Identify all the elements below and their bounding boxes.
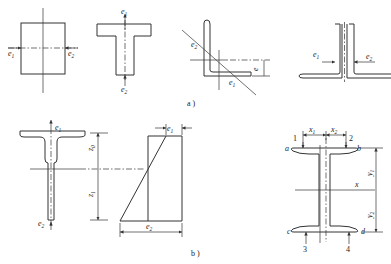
point-2: 2 [349,134,353,143]
label-y1: y1 [365,169,375,177]
point-4: 4 [346,245,350,254]
tee-beam-section: e1 e2 z0 z1 [20,120,145,230]
label-z0: z0 [86,145,96,152]
label-x1: x1 [308,125,316,135]
i-beam-section: x x1 x2 1 2 a b c d 3 4 y1 y2 [285,125,383,254]
caption-a: a ) [187,99,196,108]
label-e1: e1 [121,7,128,17]
corner-b: b [357,144,361,153]
label-e2: e2 [68,49,75,59]
point-1: 1 [293,134,297,143]
label-e2: e2 [191,40,198,50]
rectangle-section: e1 e2 [8,8,78,93]
tee-section: e1 e2 [97,7,151,95]
label-y2: y2 [365,211,375,219]
label-axis-x: x [354,180,359,189]
label-x2: x2 [330,125,338,135]
label-e1: e1 [229,78,236,88]
stress-diagram: e1 e2 [120,124,192,237]
label-e2: e2 [38,219,45,229]
label-z1: z1 [86,191,96,198]
label-e2: e2 [121,85,128,95]
label-e1: e1 [55,123,62,133]
corner-a: a [285,144,289,153]
label-e1: e1 [167,124,174,134]
corner-d: d [361,227,366,236]
label-e: e [251,67,260,71]
label-e2: e2 [366,52,373,62]
point-3: 3 [303,245,307,254]
figure-canvas: e1 e2 e1 e2 e2 e1 e e1 e2 a ) [0,0,391,264]
corner-c: c [287,227,291,236]
caption-b: b ) [191,249,200,258]
label-e2: e2 [146,222,153,232]
label-e1: e1 [8,49,15,59]
label-e1: e1 [313,50,320,60]
angle-section: e2 e1 e [182,20,270,95]
double-angle-section: e1 e2 [299,22,391,82]
